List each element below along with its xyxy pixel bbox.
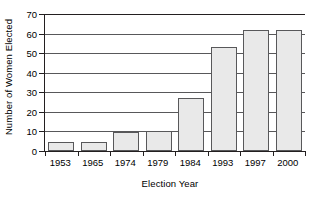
x-axis-tick-label: 1993 (212, 157, 233, 168)
y-axis-tick (39, 14, 45, 15)
x-axis-tick-label: 1974 (115, 157, 136, 168)
y-axis-tick (39, 112, 45, 113)
y-axis-tick (39, 34, 45, 35)
y-axis-tick-label: 10 (26, 126, 37, 137)
bar (178, 98, 204, 151)
x-axis-tick (208, 151, 209, 156)
x-axis-tick (305, 151, 306, 156)
y-axis-tick-label: 50 (26, 48, 37, 59)
bar (211, 47, 237, 151)
bar (48, 142, 74, 151)
x-axis-tick (273, 151, 274, 156)
y-axis-tick (39, 131, 45, 132)
bar (81, 142, 107, 151)
y-axis-tick (39, 92, 45, 93)
x-axis-tick-label: 1965 (82, 157, 103, 168)
x-axis-tick (110, 151, 111, 156)
plot-area: 010203040506070 (44, 14, 305, 152)
x-axis-tick-label: 1997 (245, 157, 266, 168)
x-axis-tick (175, 151, 176, 156)
y-axis-tick (39, 53, 45, 54)
y-axis-tick-label: 0 (32, 146, 37, 157)
bar-chart: Number of Women Elected 010203040506070 … (0, 0, 317, 198)
y-axis-tick-label: 40 (26, 67, 37, 78)
x-axis-tick (240, 151, 241, 156)
x-axis-tick-label: 1953 (50, 157, 71, 168)
bar (146, 131, 172, 151)
gridline (45, 14, 305, 15)
x-axis-tick-label: 2000 (277, 157, 298, 168)
y-axis-title: Number of Women Elected (2, 2, 16, 152)
x-axis-tick-label: 1984 (180, 157, 201, 168)
bar (276, 30, 302, 151)
x-axis-tick (45, 151, 46, 156)
y-axis-tick-label: 70 (26, 9, 37, 20)
y-axis-tick-label: 30 (26, 87, 37, 98)
y-axis-tick-label: 60 (26, 28, 37, 39)
x-axis-tick-label: 1979 (147, 157, 168, 168)
x-axis-tick (143, 151, 144, 156)
y-axis-tick (39, 73, 45, 74)
x-axis-title: Election Year (30, 178, 310, 189)
x-axis-tick (78, 151, 79, 156)
y-axis-tick-label: 20 (26, 106, 37, 117)
bar (113, 132, 139, 151)
bar (243, 30, 269, 151)
